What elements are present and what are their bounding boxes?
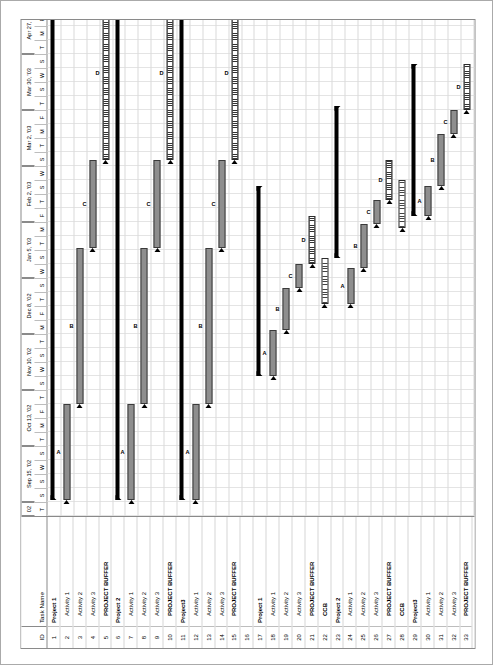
gantt-bar-task[interactable]: B: [437, 134, 444, 186]
task-row[interactable]: 22CCB: [318, 517, 331, 648]
gantt-bar-task[interactable]: C: [373, 200, 380, 224]
task-row[interactable]: 11Project3: [176, 517, 189, 648]
gantt-bar-task[interactable]: B: [282, 288, 289, 330]
task-row[interactable]: 23Project 2: [331, 517, 344, 648]
task-row[interactable]: 28CCB: [395, 517, 408, 648]
task-grid[interactable]: ID Task Name 1Project 12Activity 13Activ…: [21, 516, 474, 648]
dependency-arrow-icon: [270, 376, 276, 380]
task-row[interactable]: 16: [240, 517, 253, 648]
dependency-arrow-icon: [63, 500, 69, 504]
gantt-bar-label: A: [120, 449, 124, 455]
gantt-bar-task[interactable]: C: [450, 110, 457, 134]
gantt-bar-task[interactable]: A: [347, 268, 354, 304]
task-row[interactable]: 2Activity 1: [60, 517, 73, 648]
gantt-bar-task[interactable]: A: [63, 404, 70, 500]
task-row[interactable]: 24Activity 1: [343, 517, 356, 648]
timescale-minor-label: S: [34, 278, 47, 292]
task-row[interactable]: 5PROJECT BUFFER: [99, 517, 112, 648]
task-row-name: Activity 3: [215, 517, 227, 626]
gantt-bar-task[interactable]: C: [295, 264, 302, 288]
task-row-name: PROJECT BUFFER: [227, 517, 239, 626]
gantt-bar-summary[interactable]: [256, 186, 260, 376]
task-row-name: Activity 1: [60, 517, 72, 626]
task-row[interactable]: 20Activity 3: [292, 517, 305, 648]
task-row-id: 28: [395, 626, 407, 648]
task-row[interactable]: 18Activity 1: [266, 517, 279, 648]
gantt-bar-buffer[interactable]: D: [102, 20, 109, 160]
task-row[interactable]: 4Activity 3: [86, 517, 99, 648]
task-row-name: Activity 3: [150, 517, 162, 626]
gantt-bar-ccb[interactable]: [321, 258, 328, 304]
rotation-wrapper: ID Task Name 1Project 12Activity 13Activ…: [1, 1, 493, 665]
task-row[interactable]: 29Project3: [408, 517, 421, 648]
gantt-bar-summary[interactable]: [179, 20, 183, 500]
task-row[interactable]: 7Activity 1: [124, 517, 137, 648]
gantt-bar-label: A: [340, 283, 344, 289]
chart-gridline-horizontal: [370, 20, 371, 516]
timescale-minor-label: S: [34, 446, 47, 460]
gantt-bar-task[interactable]: A: [269, 330, 276, 376]
timescale-minor-label: T: [34, 334, 47, 348]
task-row[interactable]: 19Activity 2: [279, 517, 292, 648]
task-row[interactable]: 13Activity 2: [202, 517, 215, 648]
task-row[interactable]: 25Activity 2: [356, 517, 369, 648]
task-row[interactable]: 26Activity 3: [369, 517, 382, 648]
task-row[interactable]: 1Project 1: [47, 517, 60, 648]
gantt-bar-buffer[interactable]: D: [463, 64, 470, 110]
gantt-bar-label: C: [146, 201, 150, 207]
gantt-bar-task[interactable]: C: [218, 160, 225, 248]
task-row[interactable]: 32Activity 3: [447, 517, 460, 648]
task-row[interactable]: 27PROJECT BUFFER: [382, 517, 395, 648]
task-row[interactable]: 14Activity 3: [215, 517, 228, 648]
gantt-bar-label: B: [69, 323, 73, 329]
task-row[interactable]: 12Activity 1: [189, 517, 202, 648]
gantt-bar-task[interactable]: B: [205, 248, 212, 404]
gantt-bar-task[interactable]: B: [76, 248, 83, 404]
gantt-bar-task[interactable]: B: [360, 224, 367, 268]
task-row[interactable]: 3Activity 2: [73, 517, 86, 648]
gantt-bar-task[interactable]: A: [192, 404, 199, 500]
task-row-id: 21: [305, 626, 317, 648]
gantt-bar-buffer[interactable]: D: [231, 20, 238, 160]
gantt-bar-task[interactable]: A: [424, 186, 431, 216]
task-row[interactable]: 33PROJECT BUFFER: [460, 517, 473, 648]
dependency-arrow-icon: [386, 200, 392, 204]
chart-gridline-horizontal: [357, 20, 358, 516]
gantt-bar-buffer[interactable]: D: [166, 20, 173, 160]
task-row[interactable]: 21PROJECT BUFFER: [305, 517, 318, 648]
timescale-minor-label: S: [34, 54, 47, 68]
dependency-arrow-icon: [296, 288, 302, 292]
task-row[interactable]: 6Project 2: [111, 517, 124, 648]
task-row-name: Project3: [408, 517, 420, 626]
gantt-bar-summary[interactable]: [115, 20, 119, 500]
dependency-arrow-icon: [192, 500, 198, 504]
timescale-minor-label: T: [34, 432, 47, 446]
task-row[interactable]: 10PROJECT BUFFER: [163, 517, 176, 648]
task-row-name: Activity 1: [343, 517, 355, 626]
gantt-bar-task[interactable]: C: [153, 160, 160, 248]
gantt-bar-task[interactable]: B: [140, 248, 147, 404]
task-row-name: Activity 3: [447, 517, 459, 626]
task-row[interactable]: 15PROJECT BUFFER: [227, 517, 240, 648]
task-row[interactable]: 9Activity 3: [150, 517, 163, 648]
task-row[interactable]: 8Activity 2: [137, 517, 150, 648]
timescale-minor-label: T: [34, 236, 47, 250]
gantt-bar-buffer[interactable]: D: [385, 160, 392, 200]
task-row[interactable]: 30Activity 1: [421, 517, 434, 648]
gantt-bar-summary[interactable]: [50, 20, 54, 500]
timescale-minor-label: F: [34, 306, 47, 320]
task-row[interactable]: 17Project 1: [253, 517, 266, 648]
gantt-bars-canvas[interactable]: ABCDABCDABCDABCDABCDABCD: [47, 20, 474, 516]
gantt-bar-summary[interactable]: [334, 106, 338, 258]
chart-gridline-horizontal: [60, 20, 61, 516]
timescale-minor-label: S: [34, 152, 47, 166]
gantt-bar-ccb[interactable]: [398, 180, 405, 228]
gantt-chart-area[interactable]: 02Sep 15, '02Oct 13, '02Nov 10, '02Dec 8…: [21, 20, 474, 516]
gantt-bar-task[interactable]: A: [127, 404, 134, 500]
dependency-arrow-icon: [450, 134, 456, 138]
gantt-bar-summary[interactable]: [411, 64, 415, 216]
gantt-bar-task[interactable]: C: [89, 160, 96, 248]
task-row[interactable]: 31Activity 2: [434, 517, 447, 648]
gantt-bar-buffer[interactable]: D: [308, 216, 315, 264]
chart-gridline-horizontal: [176, 20, 177, 516]
